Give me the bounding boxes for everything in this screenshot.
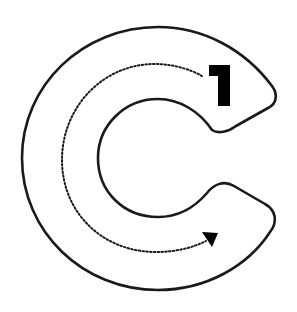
letter-c-graphic (0, 0, 297, 312)
letter-c-tracing-worksheet: 1 C (0, 0, 297, 312)
letter-c-outline (22, 27, 276, 290)
